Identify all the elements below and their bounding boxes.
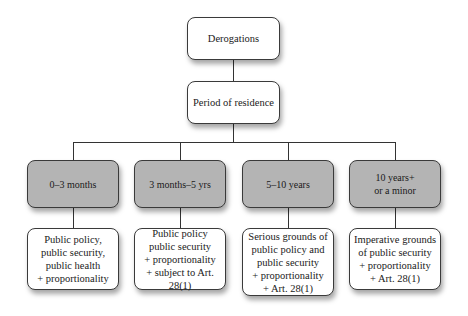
connector-branch-2: [180, 142, 181, 160]
grounds-label: Public policy, public security, public h…: [37, 233, 109, 285]
period-node-5-10-years: 5–10 years: [242, 160, 334, 208]
period-label: 3 months–5 yrs: [149, 178, 211, 191]
connector-period-2-to-grounds: [180, 208, 181, 228]
period-of-residence-label: Period of residence: [193, 96, 274, 109]
connector-period-3-to-grounds: [288, 208, 289, 228]
connector-period-4-to-grounds: [395, 208, 396, 228]
period-node-3-months-5-years: 3 months–5 yrs: [134, 160, 226, 208]
period-label: 10 years+ or a minor: [374, 171, 416, 197]
grounds-node-5-10-years: Serious grounds of public policy and pub…: [242, 228, 334, 296]
period-label: 0–3 months: [50, 178, 97, 191]
connector-branch-3: [288, 142, 289, 160]
grounds-label: Public policy public security + proporti…: [135, 227, 225, 292]
connector-branch-1: [73, 142, 74, 160]
grounds-label: Serious grounds of public policy and pub…: [248, 230, 327, 295]
derogations-node: Derogations: [187, 17, 280, 60]
period-node-10-years-or-minor: 10 years+ or a minor: [349, 160, 441, 208]
connector-period-to-branches: [233, 124, 234, 142]
connector-root-to-period: [233, 60, 234, 81]
period-label: 5–10 years: [266, 178, 310, 191]
grounds-node-10-years-or-minor: Imperative grounds of public security + …: [349, 228, 441, 290]
connector-horizontal-branch: [73, 142, 396, 143]
grounds-label: Imperative grounds of public security + …: [354, 233, 436, 285]
period-node-0-3-months: 0–3 months: [27, 160, 119, 208]
period-of-residence-node: Period of residence: [187, 81, 280, 124]
connector-period-1-to-grounds: [73, 208, 74, 228]
grounds-node-0-3-months: Public policy, public security, public h…: [27, 228, 119, 290]
grounds-node-3-months-5-years: Public policy public security + proporti…: [134, 228, 226, 290]
derogations-label: Derogations: [208, 32, 259, 45]
connector-branch-4: [395, 142, 396, 160]
